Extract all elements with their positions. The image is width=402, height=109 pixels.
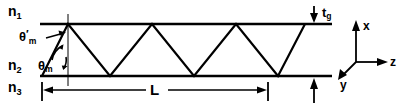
n1-base: n	[8, 3, 17, 19]
dimension-arrowhead-right	[257, 86, 267, 93]
axis-x-label: x	[363, 20, 370, 32]
zigzag-ray-path	[42, 24, 305, 76]
theta-m-arc-arrowhead-lower	[62, 65, 68, 70]
thickness-subscript: g	[326, 11, 331, 21]
refractive-index-n3-label: n3	[8, 80, 22, 97]
bounce-angle-theta-m-label: θm	[38, 59, 53, 74]
theta-m-subscript: m	[45, 64, 53, 74]
thickness-arrow-bottom-head	[310, 78, 318, 89]
thickness-arrow-top-head	[310, 13, 318, 23]
axis-y-label: y	[340, 79, 347, 91]
n3-base: n	[8, 79, 17, 95]
waveguide-ray-diagram: n1 n2 n3 θ′m θm tg L x z y	[0, 0, 402, 109]
n1-subscript: 1	[17, 11, 22, 21]
axis-z-label: z	[390, 56, 396, 68]
dimension-arrowhead-left	[43, 86, 53, 93]
guide-thickness-label: tg	[322, 6, 332, 21]
refractive-index-n1-label: n1	[8, 4, 22, 21]
bounce-angle-theta-m-prime-label: θ′m	[19, 29, 36, 45]
interaction-length-label: L	[150, 82, 159, 97]
axis-x-arrowhead	[352, 20, 360, 31]
theta-m-base: θ	[38, 58, 45, 73]
n2-subscript: 2	[17, 65, 22, 75]
theta-m-prime-subscript: m	[29, 36, 37, 46]
refractive-index-n2-label: n2	[8, 58, 22, 75]
axis-z-arrowhead	[377, 58, 388, 66]
figure-canvas	[0, 0, 402, 109]
n2-base: n	[8, 57, 17, 73]
theta-m-prime-base: θ	[19, 29, 26, 44]
n3-subscript: 3	[17, 87, 22, 97]
